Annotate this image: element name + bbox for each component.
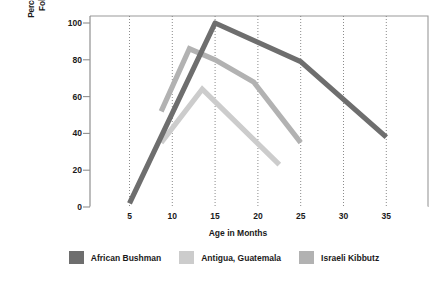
- plot-canvas: [0, 0, 448, 287]
- legend-swatch-antigua-guatemala: [179, 251, 194, 264]
- legend-label-african-bushman: African Bushman: [91, 253, 161, 263]
- chart-figure: Percentage of Children Who Cried Followi…: [0, 0, 448, 287]
- legend-label-antigua-guatemala: Antigua, Guatemala: [201, 253, 281, 263]
- legend-item-african-bushman[interactable]: African Bushman: [69, 251, 161, 264]
- legend-item-antigua-guatemala[interactable]: Antigua, Guatemala: [179, 251, 281, 264]
- y-tick-marks: [83, 23, 90, 207]
- legend-item-israeli-kibbutz[interactable]: Israeli Kibbutz: [299, 251, 379, 264]
- legend-label-israeli-kibbutz: Israeli Kibbutz: [321, 253, 379, 263]
- series-line-african-bushman: [130, 23, 387, 203]
- x-axis-title-text: Age in Months: [209, 228, 268, 238]
- chart-legend: African Bushman Antigua, Guatemala Israe…: [0, 251, 448, 264]
- legend-swatch-african-bushman: [69, 251, 84, 264]
- legend-swatch-israeli-kibbutz: [299, 251, 314, 264]
- x-axis-title: Age in Months: [0, 228, 448, 238]
